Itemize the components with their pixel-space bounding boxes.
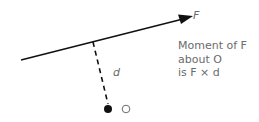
pivot-point-dot (104, 105, 112, 113)
force-line-of-action (21, 19, 183, 60)
caption-line-1: Moment of F (178, 39, 247, 53)
caption-line-2: about O (178, 53, 247, 67)
point-o-circle (122, 105, 130, 113)
moment-caption: Moment of F about O is F × d (178, 39, 247, 80)
caption-line-3: is F × d (178, 66, 247, 80)
distance-label: d (113, 66, 120, 79)
force-label: F (193, 9, 199, 22)
force-arrowhead-icon (178, 15, 193, 25)
perpendicular-distance-dashed-line (93, 42, 108, 104)
